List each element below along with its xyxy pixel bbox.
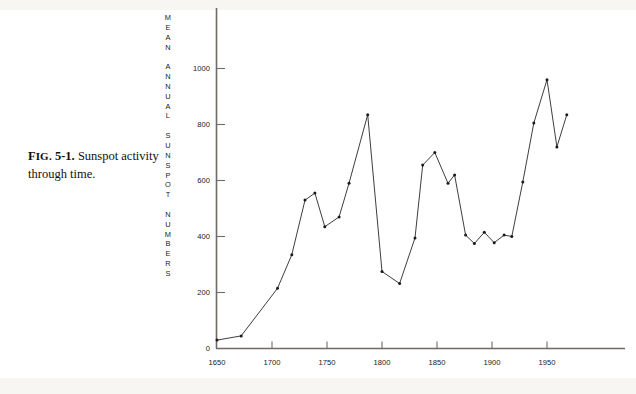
data-point-marker: [366, 113, 369, 116]
y-tick-label: 200: [197, 288, 210, 297]
data-point-marker: [323, 225, 326, 228]
data-point-marker: [414, 236, 417, 239]
data-point-marker: [304, 199, 307, 202]
x-tick-label: 1800: [362, 358, 402, 367]
data-point-marker: [546, 78, 549, 81]
chart-svg: [0, 0, 636, 394]
y-tick-label: 800: [197, 120, 210, 129]
data-point-marker: [464, 234, 467, 237]
data-point-marker: [453, 173, 456, 176]
data-point-marker: [521, 180, 524, 183]
y-tick-label: 400: [197, 232, 210, 241]
data-point-marker: [290, 253, 293, 256]
y-tick-label: 600: [197, 176, 210, 185]
x-tick-label: 1850: [417, 358, 457, 367]
data-point-marker: [503, 234, 506, 237]
y-tick-label: 1000: [193, 64, 210, 73]
sunspot-line-chart: [0, 0, 636, 394]
data-point-marker: [276, 287, 279, 290]
data-point-marker: [313, 192, 316, 195]
data-point-marker: [398, 282, 401, 285]
x-tick-label: 1950: [527, 358, 567, 367]
data-point-marker: [240, 334, 243, 337]
sunspot-series-line: [217, 80, 567, 340]
data-point-marker: [421, 164, 424, 167]
data-point-marker: [338, 215, 341, 218]
data-point-marker: [565, 113, 568, 116]
data-point-marker: [216, 339, 219, 342]
data-point-marker: [348, 182, 351, 185]
data-point-marker: [473, 242, 476, 245]
data-point-marker: [510, 235, 513, 238]
x-tick-label: 1750: [307, 358, 347, 367]
data-point-marker: [532, 122, 535, 125]
y-tick-label: 0: [206, 344, 210, 353]
data-point-marker: [433, 151, 436, 154]
x-tick-label: 1650: [197, 358, 237, 367]
data-point-marker: [493, 241, 496, 244]
sunspot-series-markers: [216, 78, 569, 341]
x-tick-label: 1700: [252, 358, 292, 367]
x-tick-label: 1900: [472, 358, 512, 367]
y-axis-ticks: [217, 69, 225, 293]
data-point-marker: [483, 231, 486, 234]
data-point-marker: [381, 270, 384, 273]
data-point-marker: [447, 182, 450, 185]
data-point-marker: [555, 145, 558, 148]
x-axis-ticks: [272, 342, 547, 349]
